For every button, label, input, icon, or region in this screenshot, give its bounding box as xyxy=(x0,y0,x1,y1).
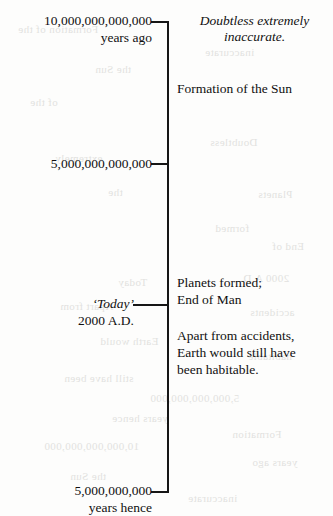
ghost-mark: the xyxy=(108,186,123,198)
label-today: ‘Today’ 2000 A.D. xyxy=(78,295,134,329)
label-five-trillion-years-ago: 5,000,000,000,000 xyxy=(51,155,152,172)
tick-today xyxy=(133,304,169,306)
annotation-planets-formed: Planets formed; End of Man xyxy=(177,274,329,308)
annotation-line: Earth would still have xyxy=(177,344,329,361)
annotation-formation-of-the-sun: Formation of the Sun xyxy=(177,80,329,97)
annotation-line: Planets formed; xyxy=(177,274,329,291)
ghost-mark: inaccurate xyxy=(188,492,237,504)
label-line: 10,000,000,000,000 xyxy=(44,12,152,29)
annotation-line: End of Man xyxy=(177,291,329,308)
label-line-today: ‘Today’ xyxy=(78,295,134,312)
ghost-mark: the Sun xyxy=(95,63,131,75)
ghost-mark: Formation xyxy=(232,428,281,440)
label-five-billion-years-hence: 5,000,000,000 years hence xyxy=(74,482,152,516)
tick-ten-trillion-years-ago xyxy=(151,21,169,23)
label-line-year: 2000 A.D. xyxy=(78,312,134,329)
tick-five-trillion-years-ago xyxy=(151,163,169,165)
ghost-mark: of the xyxy=(30,96,58,108)
label-line: 5,000,000,000 xyxy=(74,482,152,499)
ghost-mark: formed xyxy=(215,222,249,234)
annotation-line: Formation of the Sun xyxy=(177,80,329,97)
ghost-mark: Today xyxy=(118,276,147,288)
annotation-line: Doubtless extremely xyxy=(182,13,327,29)
timeline-figure: Formation of the inaccurate the Sun of t… xyxy=(0,0,333,516)
label-line: years hence xyxy=(74,499,152,516)
ghost-mark: the Sun xyxy=(70,470,106,482)
ghost-mark: years hence xyxy=(112,412,168,424)
annotation-caveat: Doubtless extremely inaccurate. xyxy=(182,13,327,45)
ghost-mark: still have been xyxy=(64,372,134,384)
ghost-mark: inaccurate xyxy=(205,46,254,58)
tick-five-billion-years-hence xyxy=(151,491,169,493)
ghost-mark: Doubtless xyxy=(210,136,258,148)
label-line: 5,000,000,000,000 xyxy=(51,155,152,172)
ghost-mark: Planets xyxy=(258,188,293,200)
timeline-axis xyxy=(167,22,169,493)
ghost-mark: 10,000,000,000,000 xyxy=(44,440,139,452)
label-ten-trillion-years-ago: 10,000,000,000,000 years ago xyxy=(44,12,152,46)
annotation-line: Apart from accidents, xyxy=(177,327,329,344)
ghost-mark: 5,000,000,000,000 xyxy=(150,392,239,404)
annotation-earth-habitable: Apart from accidents, Earth would still … xyxy=(177,327,329,378)
label-line: years ago xyxy=(44,29,152,46)
annotation-line: inaccurate. xyxy=(182,29,327,45)
ghost-mark: Earth would xyxy=(100,335,158,347)
ghost-mark: years ago xyxy=(252,456,297,468)
ghost-mark: End of xyxy=(272,240,304,252)
annotation-line: been habitable. xyxy=(177,361,329,378)
